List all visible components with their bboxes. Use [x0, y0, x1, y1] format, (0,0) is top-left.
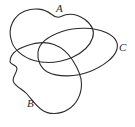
curves-diagram: A B C [0, 0, 135, 127]
figure-canvas: A B C [0, 0, 135, 127]
curve-c-label: C [119, 41, 127, 53]
curve-a-label: A [55, 2, 63, 14]
curve-b-label: B [27, 97, 34, 109]
